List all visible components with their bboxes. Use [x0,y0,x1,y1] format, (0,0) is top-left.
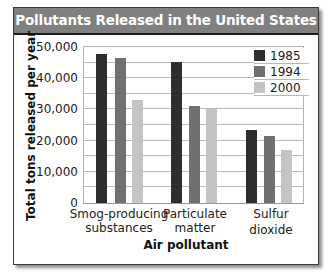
bar-1985 [96,54,107,203]
y-tick-label: 50,000 [14,40,78,54]
chart-title: Pollutants Released in the United States [14,8,318,35]
x-category-label: Particulatematter [163,207,227,235]
bar-1994 [189,106,200,203]
legend-label: 1994 [270,65,301,79]
bar-1994 [115,58,126,203]
legend-item-1985: 1985 [254,48,309,64]
bar-2000 [206,109,217,203]
bar-1985 [171,62,182,203]
legend: 198519942000 [254,48,309,96]
y-tick-label: 0 [14,196,78,210]
legend-swatch [254,66,265,77]
bar-2000 [281,150,292,203]
bar-1985 [246,130,257,203]
y-tick-label: 20,000 [14,134,78,148]
y-tick-label: 10,000 [14,165,78,179]
legend-swatch [254,50,265,61]
legend-label: 2000 [270,81,301,95]
x-category-label: Smog-producingsubstances [70,207,169,235]
legend-swatch [254,82,265,93]
bar-2000 [132,100,143,203]
x-category-label: Sulfurdioxide [249,207,292,237]
legend-label: 1985 [270,49,301,63]
bar-1994 [264,136,275,203]
y-tick-label: 40,000 [14,71,78,85]
legend-item-1994: 1994 [254,64,309,80]
legend-item-2000: 2000 [254,80,309,96]
chart-frame: Pollutants Released in the United States… [13,7,319,265]
y-tick-label: 30,000 [14,102,78,116]
x-axis-label: Air pollutant [14,238,318,252]
